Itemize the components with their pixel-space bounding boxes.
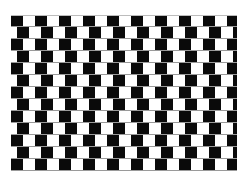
- light-tile: [143, 159, 155, 170]
- dark-tile: [161, 147, 173, 158]
- dark-tile: [59, 135, 71, 146]
- light-tile: [191, 15, 203, 26]
- light-tile: [215, 159, 227, 170]
- dark-tile: [155, 15, 167, 26]
- light-tile: [95, 111, 107, 122]
- light-tile: [77, 99, 89, 110]
- dark-tile: [227, 135, 237, 146]
- light-tile: [29, 27, 41, 38]
- dark-tile: [209, 75, 221, 86]
- dark-tile: [89, 27, 101, 38]
- dark-tile: [35, 39, 47, 50]
- light-tile: [47, 111, 59, 122]
- dark-tile: [209, 99, 221, 110]
- light-tile: [125, 51, 137, 62]
- dark-tile: [131, 87, 143, 98]
- light-tile: [53, 99, 65, 110]
- dark-tile: [65, 27, 77, 38]
- dark-tile: [41, 99, 53, 110]
- light-tile: [29, 147, 41, 158]
- dark-tile: [107, 39, 119, 50]
- dark-tile: [107, 15, 119, 26]
- light-tile: [215, 87, 227, 98]
- light-tile: [191, 39, 203, 50]
- light-tile: [173, 123, 185, 134]
- dark-tile: [233, 27, 237, 38]
- dark-tile: [179, 63, 191, 74]
- dark-tile: [155, 39, 167, 50]
- light-tile: [47, 15, 59, 26]
- light-tile: [53, 75, 65, 86]
- wall-row: [11, 135, 237, 147]
- light-tile: [197, 51, 209, 62]
- dark-tile: [41, 27, 53, 38]
- light-tile: [77, 27, 89, 38]
- dark-tile: [155, 87, 167, 98]
- light-tile: [143, 63, 155, 74]
- light-tile: [101, 147, 113, 158]
- dark-tile: [137, 123, 149, 134]
- light-tile: [119, 39, 131, 50]
- dark-tile: [185, 75, 197, 86]
- light-tile: [215, 39, 227, 50]
- dark-tile: [83, 63, 95, 74]
- dark-tile: [59, 159, 71, 170]
- wall-row: [11, 75, 237, 87]
- dark-tile: [203, 63, 215, 74]
- light-tile: [167, 159, 179, 170]
- dark-tile: [35, 111, 47, 122]
- light-tile: [119, 111, 131, 122]
- light-tile: [149, 123, 161, 134]
- light-tile: [143, 111, 155, 122]
- dark-tile: [131, 159, 143, 170]
- light-tile: [221, 123, 233, 134]
- dark-tile: [11, 15, 23, 26]
- dark-tile: [113, 75, 125, 86]
- light-tile: [149, 147, 161, 158]
- light-tile: [125, 99, 137, 110]
- dark-tile: [203, 15, 215, 26]
- light-tile: [173, 51, 185, 62]
- dark-tile: [17, 123, 29, 134]
- dark-tile: [185, 147, 197, 158]
- light-tile: [29, 51, 41, 62]
- wall-row: [11, 159, 237, 171]
- light-tile: [53, 123, 65, 134]
- dark-tile: [185, 51, 197, 62]
- light-tile: [119, 63, 131, 74]
- light-tile: [173, 147, 185, 158]
- wall-row: [11, 39, 237, 51]
- dark-tile: [155, 135, 167, 146]
- light-tile: [23, 135, 35, 146]
- light-tile: [221, 75, 233, 86]
- wall-row: [11, 147, 237, 159]
- light-tile: [143, 15, 155, 26]
- light-tile: [71, 15, 83, 26]
- dark-tile: [179, 15, 191, 26]
- dark-tile: [209, 147, 221, 158]
- wall-row: [11, 51, 237, 63]
- light-tile: [23, 87, 35, 98]
- light-tile: [47, 159, 59, 170]
- light-tile: [23, 15, 35, 26]
- dark-tile: [227, 63, 237, 74]
- light-tile: [71, 63, 83, 74]
- dark-tile: [131, 15, 143, 26]
- dark-tile: [179, 87, 191, 98]
- dark-tile: [107, 63, 119, 74]
- light-tile: [167, 111, 179, 122]
- dark-tile: [59, 63, 71, 74]
- dark-tile: [161, 51, 173, 62]
- dark-tile: [179, 135, 191, 146]
- dark-tile: [137, 75, 149, 86]
- dark-tile: [65, 99, 77, 110]
- dark-tile: [227, 15, 237, 26]
- light-tile: [149, 27, 161, 38]
- light-tile: [29, 75, 41, 86]
- dark-tile: [59, 111, 71, 122]
- dark-tile: [209, 123, 221, 134]
- dark-tile: [203, 135, 215, 146]
- light-tile: [125, 123, 137, 134]
- dark-tile: [65, 51, 77, 62]
- light-tile: [149, 99, 161, 110]
